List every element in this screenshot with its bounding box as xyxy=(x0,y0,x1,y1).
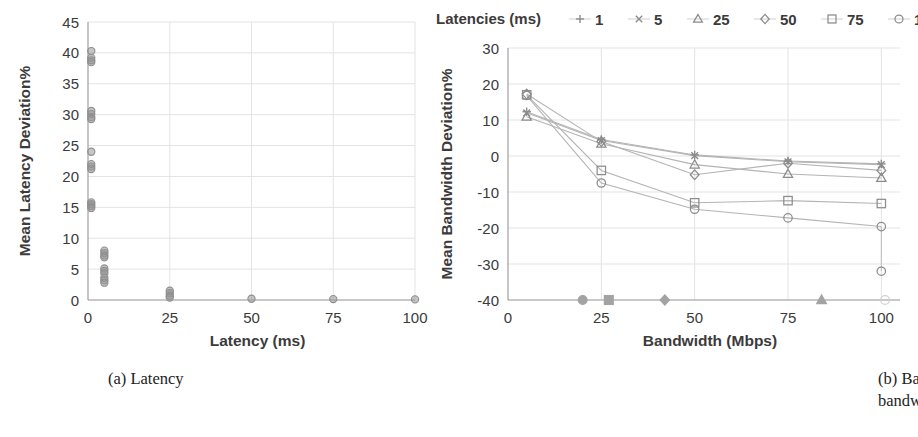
panel-latency: 051015202530354045 0255075100 Mean Laten… xyxy=(0,0,430,437)
x-tick-label: 75 xyxy=(325,309,342,326)
bandwidth-chart: Latencies (ms)15255075100 -40-30-20-1001… xyxy=(430,0,918,360)
latency-data-points xyxy=(88,47,419,303)
y-tick-label: 35 xyxy=(62,75,79,92)
figure-root: 051015202530354045 0255075100 Mean Laten… xyxy=(0,0,918,437)
panel-b-caption: (b) Bandwidth, at different Latencies. B… xyxy=(878,368,918,412)
marker-triangle xyxy=(694,14,703,22)
y-tick-label: 45 xyxy=(62,14,79,31)
bandwidth-y-axis-label: Mean Bandwidth Deviation% xyxy=(438,68,455,279)
y-tick-label: 0 xyxy=(491,148,499,165)
x-tick-label: 25 xyxy=(161,309,178,326)
marker-diamond xyxy=(660,295,669,305)
bandwidth-y-tick-labels: -40-30-20-100102030 xyxy=(477,40,499,309)
x-tick-label: 100 xyxy=(869,309,894,326)
latency-chart: 051015202530354045 0255075100 Mean Laten… xyxy=(0,0,430,360)
latency-x-axis-label: Latency (ms) xyxy=(210,332,306,349)
x-tick-label: 0 xyxy=(84,309,92,326)
bandwidth-chart-svg: Latencies (ms)15255075100 -40-30-20-1001… xyxy=(430,0,918,360)
data-point xyxy=(88,204,95,211)
data-point xyxy=(330,295,337,302)
y-tick-label: 25 xyxy=(62,137,79,154)
panel-bandwidth: Latencies (ms)15255075100 -40-30-20-1001… xyxy=(430,0,918,437)
latency-y-tick-labels: 051015202530354045 xyxy=(62,14,79,309)
y-tick-label: 30 xyxy=(62,106,79,123)
marker-circle xyxy=(578,296,587,305)
x-tick-label: 75 xyxy=(780,309,797,326)
data-point xyxy=(88,165,95,172)
y-tick-label: 5 xyxy=(71,261,79,278)
bandwidth-x-axis-label: Bandwidth (Mbps) xyxy=(643,332,777,349)
marker-triangle xyxy=(817,295,827,304)
y-tick-label: 20 xyxy=(62,168,79,185)
data-point xyxy=(411,296,418,303)
data-point xyxy=(88,59,95,66)
panel-b-caption-label: (b) xyxy=(878,369,897,388)
data-point xyxy=(88,47,95,54)
series-line xyxy=(527,113,882,165)
legend-item-label: 5 xyxy=(654,11,662,28)
latency-x-tick-labels: 0255075100 xyxy=(84,309,428,326)
data-point xyxy=(248,295,255,302)
data-point xyxy=(101,279,108,286)
legend-item-label: 50 xyxy=(780,11,797,28)
x-tick-label: 0 xyxy=(504,309,512,326)
series-line xyxy=(527,95,882,204)
marker-square xyxy=(604,296,613,305)
y-tick-label: -10 xyxy=(477,184,499,201)
y-tick-label: 20 xyxy=(482,76,499,93)
x-tick-label: 50 xyxy=(686,309,703,326)
legend-item-label: 25 xyxy=(713,11,730,28)
bandwidth-series-markers xyxy=(522,89,886,275)
bandwidth-legend: Latencies (ms)15255075100 xyxy=(436,10,918,28)
y-tick-label: 30 xyxy=(482,40,499,57)
legend-item-label: 1 xyxy=(595,11,603,28)
data-point xyxy=(166,294,173,301)
latency-gridlines xyxy=(88,22,415,300)
series-line xyxy=(527,96,882,227)
y-tick-label: 40 xyxy=(62,44,79,61)
legend-item-label: 100 xyxy=(914,11,918,28)
y-tick-label: 10 xyxy=(482,112,499,129)
y-tick-label: 10 xyxy=(62,230,79,247)
y-tick-label: -20 xyxy=(477,220,499,237)
legend-item-label: 75 xyxy=(847,11,864,28)
bandwidth-x-tick-labels: 0255075100 xyxy=(504,309,894,326)
panel-a-caption: (a) Latency xyxy=(108,368,368,390)
x-tick-label: 50 xyxy=(243,309,260,326)
latency-y-axis-label: Mean Latency Deviation% xyxy=(16,66,33,257)
panel-a-caption-text: Latency xyxy=(130,369,183,388)
panel-a-caption-label: (a) xyxy=(108,369,126,388)
x-tick-label: 25 xyxy=(593,309,610,326)
data-point xyxy=(88,115,95,122)
bandwidth-series-lines xyxy=(527,94,882,271)
legend-title: Latencies (ms) xyxy=(436,10,541,27)
data-point xyxy=(88,148,95,155)
y-tick-label: 0 xyxy=(71,292,79,309)
series-line xyxy=(527,117,882,178)
data-point xyxy=(101,254,108,261)
y-tick-label: 15 xyxy=(62,199,79,216)
x-tick-label: 100 xyxy=(402,309,427,326)
y-tick-label: -40 xyxy=(477,292,499,309)
y-tick-label: -30 xyxy=(477,256,499,273)
latency-chart-svg: 051015202530354045 0255075100 Mean Laten… xyxy=(0,0,430,360)
